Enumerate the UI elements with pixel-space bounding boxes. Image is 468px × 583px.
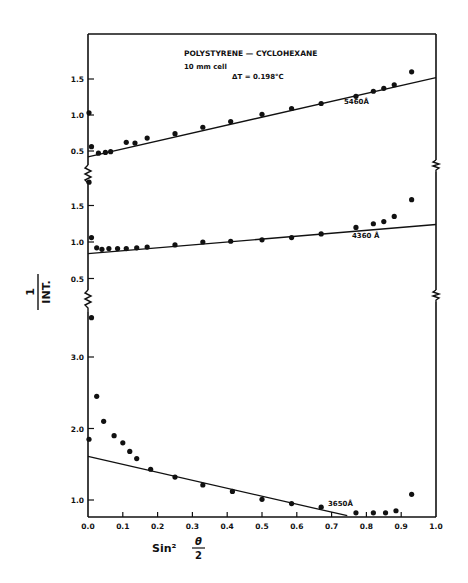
y-label-denominator: INT. (40, 280, 53, 303)
data-point (120, 440, 125, 445)
data-point (289, 106, 294, 111)
data-point (289, 501, 294, 506)
x-tick-label: 0.1 (116, 522, 129, 531)
x-tick-label: 0.3 (186, 522, 199, 531)
data-point (409, 197, 414, 202)
series-label-3650: 3650Å (328, 499, 353, 508)
plot-frame (88, 34, 436, 517)
data-point (228, 239, 233, 244)
chart-title: POLYSTYRENE — CYCLOHEXANE (184, 49, 317, 58)
data-point (134, 456, 139, 461)
x-tick-label: 0.2 (151, 522, 164, 531)
y-tick-label: 0.5 (71, 147, 84, 156)
x-label-theta: θ (195, 536, 202, 547)
data-point (392, 214, 397, 219)
data-point (89, 315, 94, 320)
data-point (200, 482, 205, 487)
x-tick-label: 0.5 (255, 522, 268, 531)
data-point (383, 510, 388, 515)
data-point (89, 235, 94, 240)
data-point (353, 225, 358, 230)
x-tick-label: 0.0 (81, 522, 94, 531)
data-point (200, 239, 205, 244)
data-point (393, 508, 398, 513)
y-tick-label: 2.0 (71, 425, 84, 434)
data-point (108, 149, 113, 154)
x-tick-label: 0.4 (221, 522, 234, 531)
data-point (86, 110, 91, 115)
data-point (409, 492, 414, 497)
fit-line (88, 456, 347, 515)
data-point (89, 144, 94, 149)
data-point (371, 221, 376, 226)
x-axis-label: Sin² θ 2 (152, 536, 205, 561)
data-point (124, 246, 129, 251)
data-point (319, 101, 324, 106)
x-tick-label: 1.0 (429, 522, 442, 531)
data-point (101, 419, 106, 424)
data-point (94, 245, 99, 250)
cell-annotation: 10 mm cell (184, 63, 227, 71)
data-point (112, 433, 117, 438)
data-point (127, 449, 132, 454)
data-point (200, 125, 205, 130)
y-tick-label: 1.0 (71, 496, 84, 505)
data-point (319, 505, 324, 510)
y-tick-label: 0.5 (71, 275, 84, 284)
data-point (132, 140, 137, 145)
series-label-4360: 4360 Å (352, 231, 380, 240)
series-label-5460: 5460Å (344, 97, 369, 106)
x-label-two: 2 (195, 550, 202, 561)
data-point (230, 489, 235, 494)
x-label-sin: Sin² (152, 542, 177, 555)
data-point (96, 151, 101, 156)
data-point (228, 119, 233, 124)
data-point (259, 497, 264, 502)
data-point (371, 89, 376, 94)
data-point (145, 135, 150, 140)
data-point (148, 467, 153, 472)
scattering-chart: 0.00.10.20.30.40.50.60.70.80.91.0 0.51.0… (0, 0, 468, 583)
data-point (392, 82, 397, 87)
x-tick-label: 0.9 (395, 522, 408, 531)
data-point (409, 69, 414, 74)
data-point (124, 140, 129, 145)
data-point (103, 150, 108, 155)
axis-break-marks (85, 160, 439, 312)
data-point (115, 246, 120, 251)
data-point (381, 219, 386, 224)
data-point (172, 475, 177, 480)
y-tick-label: 1.0 (71, 111, 84, 120)
data-point (353, 510, 358, 515)
data-point (172, 131, 177, 136)
data-point (259, 112, 264, 117)
x-tick-label: 0.7 (325, 522, 338, 531)
data-point (145, 245, 150, 250)
series-5460 (86, 69, 436, 157)
data-point (86, 180, 91, 185)
y-label-numerator: 1 (24, 288, 37, 296)
x-axis-ticks: 0.00.10.20.30.40.50.60.70.80.91.0 (81, 512, 442, 531)
data-point (94, 394, 99, 399)
data-point (289, 235, 294, 240)
y-axis-label: 1 INT. (24, 274, 53, 310)
data-point (172, 242, 177, 247)
y-tick-label: 1.0 (71, 238, 84, 247)
data-point (86, 437, 91, 442)
data-point (319, 231, 324, 236)
y-tick-label: 1.5 (71, 75, 84, 84)
data-point (371, 510, 376, 515)
x-tick-label: 0.8 (360, 522, 373, 531)
delta-t-annotation: ΔT = 0.198°C (232, 73, 284, 81)
data-point (134, 245, 139, 250)
data-point (259, 237, 264, 242)
series-3650 (86, 315, 414, 516)
x-tick-label: 0.6 (290, 522, 303, 531)
y-tick-label: 3.0 (71, 353, 84, 362)
data-point (106, 246, 111, 251)
data-point (381, 86, 386, 91)
data-point (99, 247, 104, 252)
series-4360 (86, 180, 436, 254)
y-tick-label: 1.5 (71, 202, 84, 211)
